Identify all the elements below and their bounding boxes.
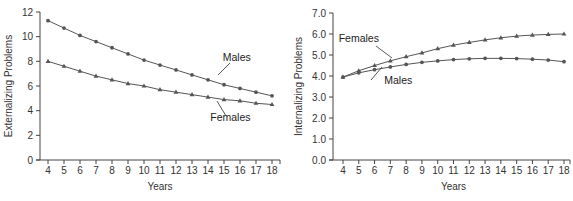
circle-marker [531, 57, 535, 61]
x-tick-label: 5 [356, 165, 362, 176]
x-tick-label: 6 [77, 165, 83, 176]
circle-marker [158, 63, 162, 67]
x-tick-label: 11 [448, 165, 459, 176]
circle-marker [499, 56, 503, 60]
y-tick-label: 0.0 [312, 155, 326, 166]
x-tick-label: 7 [388, 165, 394, 176]
x-tick-label: 7 [93, 165, 99, 176]
y-axis-title: Internalizing Problems [293, 37, 304, 136]
x-tick-label: 14 [202, 165, 214, 176]
series-label-males: Males [223, 51, 251, 63]
x-tick-label: 10 [432, 165, 444, 176]
circle-marker [238, 87, 242, 91]
series-label-males: Males [384, 74, 412, 86]
x-tick-label: 12 [464, 165, 476, 176]
x-tick-label: 15 [511, 165, 523, 176]
circle-marker [420, 60, 424, 64]
y-tick-label: 3.0 [312, 92, 326, 103]
x-tick-label: 13 [480, 165, 492, 176]
x-tick-label: 16 [234, 165, 246, 176]
x-tick-label: 13 [186, 165, 198, 176]
triangle-marker [562, 31, 567, 35]
circle-marker [190, 73, 194, 77]
x-tick-label: 4 [340, 165, 346, 176]
y-tick-label: 8 [27, 56, 33, 67]
circle-marker [467, 57, 471, 61]
x-tick-label: 8 [403, 165, 409, 176]
y-tick-label: 4 [27, 105, 33, 116]
y-tick-label: 10 [22, 31, 34, 42]
series-label-text: Females [339, 32, 379, 44]
circle-marker [436, 59, 440, 63]
y-tick-label: 6 [27, 81, 33, 92]
circle-marker [62, 26, 66, 30]
circle-marker [388, 65, 392, 69]
circle-marker [78, 34, 82, 38]
y-tick-label: 1.0 [312, 134, 326, 145]
y-tick-label: 6.0 [312, 29, 326, 40]
leader-line [376, 46, 392, 58]
x-tick-label: 12 [170, 165, 182, 176]
circle-marker [222, 83, 226, 87]
circle-marker [94, 40, 98, 44]
series-label-text: Males [384, 74, 412, 86]
x-tick-label: 15 [218, 165, 230, 176]
axes: 024681012456789101112131415161718 [22, 7, 280, 177]
y-tick-label: 7.0 [312, 8, 326, 19]
circle-marker [483, 56, 487, 60]
x-tick-label: 17 [250, 165, 262, 176]
circle-marker [110, 46, 114, 50]
y-tick-label: 2.0 [312, 113, 326, 124]
x-tick-label: 8 [109, 165, 115, 176]
leader-line [218, 63, 230, 75]
circle-marker [206, 78, 210, 82]
x-tick-label: 9 [125, 165, 131, 176]
circle-marker [270, 94, 274, 98]
series-line [48, 61, 272, 104]
x-tick-label: 16 [527, 165, 539, 176]
series-label-text: Males [223, 51, 251, 63]
x-tick-label: 14 [495, 165, 507, 176]
externalizing-problems-chart: 024681012456789101112131415161718YearsEx… [0, 0, 290, 201]
circle-marker [373, 68, 377, 72]
x-tick-label: 11 [155, 165, 166, 176]
x-tick-label: 4 [45, 165, 51, 176]
x-axis-title: Years [147, 181, 172, 192]
y-tick-label: 2 [27, 130, 33, 141]
internalizing-problems-chart: 0.01.02.03.04.05.06.07.04567891011121314… [290, 0, 573, 201]
x-tick-label: 18 [558, 165, 570, 176]
x-axis-title: Years [441, 181, 466, 192]
circle-marker [254, 90, 258, 94]
x-tick-label: 18 [266, 165, 278, 176]
triangle-marker [46, 59, 51, 63]
circle-marker [341, 75, 345, 79]
y-axis-title: Externalizing Problems [3, 35, 14, 137]
x-tick-label: 9 [419, 165, 425, 176]
circle-marker [46, 19, 50, 23]
circle-marker [142, 58, 146, 62]
figure: 024681012456789101112131415161718YearsEx… [0, 0, 573, 201]
series-label-females: Females [339, 32, 379, 44]
circle-marker [126, 52, 130, 56]
circle-marker [404, 63, 408, 67]
circle-marker [546, 58, 550, 62]
y-tick-label: 0 [27, 155, 33, 166]
x-tick-label: 6 [372, 165, 378, 176]
series-label-females: Females [210, 111, 250, 123]
y-tick-label: 4.0 [312, 71, 326, 82]
x-tick-label: 17 [543, 165, 555, 176]
y-tick-label: 12 [22, 7, 34, 18]
circle-marker [174, 68, 178, 72]
y-tick-label: 5.0 [312, 50, 326, 61]
series-label-text: Females [210, 111, 250, 123]
circle-marker [357, 71, 361, 75]
circle-marker [515, 57, 519, 61]
circle-marker [562, 60, 566, 64]
x-tick-label: 10 [138, 165, 150, 176]
x-tick-label: 5 [61, 165, 67, 176]
circle-marker [452, 58, 456, 62]
